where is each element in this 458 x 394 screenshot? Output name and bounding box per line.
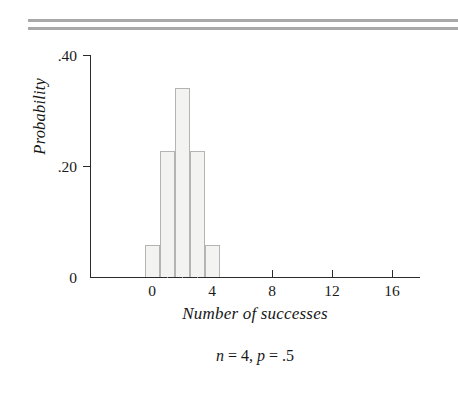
- x-tick-label-0: 0: [137, 283, 167, 299]
- x-axis-line: [90, 277, 420, 278]
- bar-2: [175, 88, 190, 277]
- caption-n-symbol: n: [216, 347, 224, 364]
- caption-p-value: = .5: [265, 347, 294, 364]
- caption-p-symbol: p: [257, 347, 265, 364]
- x-tick-label-16: 16: [377, 283, 407, 299]
- y-tick-label-0: 0: [37, 270, 77, 286]
- caption-n-value: = 4,: [224, 347, 257, 364]
- x-tick-12: [332, 270, 333, 278]
- x-tick-label-8: 8: [257, 283, 287, 299]
- x-tick-label-4: 4: [197, 283, 227, 299]
- bar-1: [160, 151, 175, 277]
- y-tick-0.20: [83, 166, 91, 167]
- y-tick-0.40: [83, 55, 91, 56]
- x-tick-8: [272, 270, 273, 278]
- bar-3: [190, 151, 205, 277]
- x-tick-16: [392, 270, 393, 278]
- x-axis-title: Number of successes: [90, 305, 420, 322]
- plot-area: .40 .20 0 0 4 8 12 16 Probability Number…: [0, 0, 458, 394]
- bar-4: [205, 245, 220, 277]
- figure-caption: n = 4, p = .5: [90, 348, 420, 364]
- figure-container: .40 .20 0 0 4 8 12 16 Probability Number…: [0, 0, 458, 394]
- x-tick-label-12: 12: [317, 283, 347, 299]
- y-axis-title: Probability: [32, 51, 49, 181]
- bar-0: [145, 245, 160, 277]
